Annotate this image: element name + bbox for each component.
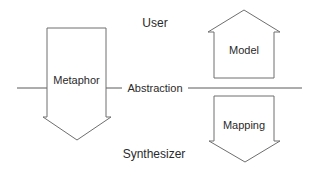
mapping-arrow: Mapping (209, 96, 280, 162)
synthesizer-label: Synthesizer (123, 147, 186, 161)
model-label: Model (229, 44, 259, 56)
mapping-label: Mapping (223, 119, 265, 131)
user-label: User (142, 16, 167, 30)
metaphor-arrow: Metaphor (43, 28, 111, 140)
abstraction-label: Abstraction (127, 82, 182, 94)
model-arrow: Model (208, 10, 280, 78)
metaphor-label: Metaphor (53, 74, 100, 86)
metaphor-model-mapping-diagram: Metaphor Model Mapping User Abstraction … (0, 0, 312, 171)
